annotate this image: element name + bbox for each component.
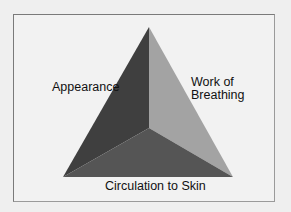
appearance-label: Appearance xyxy=(52,81,119,94)
circulation-label: Circulation to Skin xyxy=(105,180,206,193)
work-of-breathing-line2: Breathing xyxy=(191,89,245,102)
work-of-breathing-label: Work of Breathing xyxy=(191,76,245,102)
